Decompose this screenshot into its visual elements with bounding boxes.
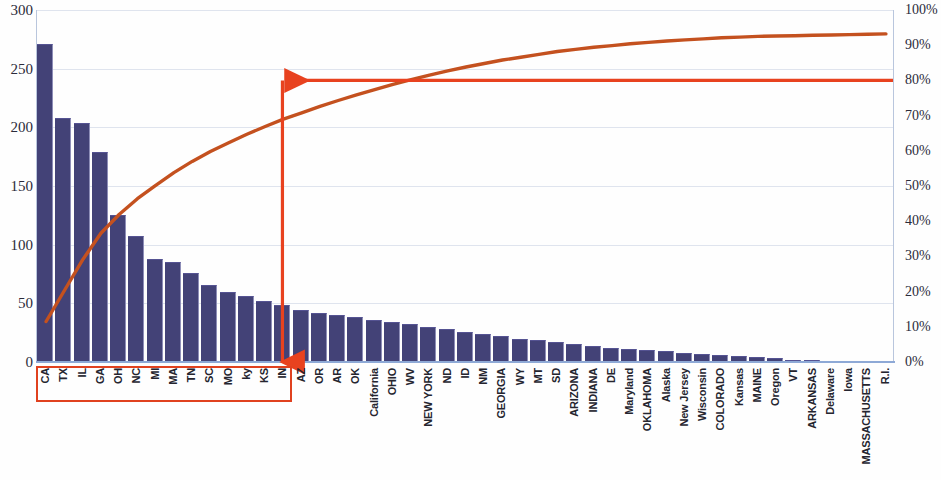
x-axis-label: MT	[529, 366, 547, 478]
x-axis-label-text: R.I.	[879, 368, 891, 384]
y2-tick-70: 70%	[905, 108, 931, 124]
x-axis-label-text: New Jersey	[678, 368, 690, 427]
x-axis-label: Iowa	[839, 366, 857, 478]
x-axis-label-text: MA	[167, 368, 179, 385]
bar	[530, 340, 546, 362]
x-axis-label-text: OKLAHOMA	[641, 368, 653, 431]
bar	[384, 322, 400, 362]
bar	[110, 215, 126, 362]
x-axis-label-text: California	[368, 368, 380, 417]
x-axis-label-text: ARIZONA	[568, 368, 580, 417]
y2-tick-80: 80%	[905, 72, 931, 88]
x-axis-label-text: COLORADO	[714, 368, 726, 431]
x-axis-label-text: Delaware	[824, 368, 836, 415]
bar	[439, 329, 455, 362]
x-axis-label-text: TN	[185, 368, 197, 382]
x-axis-label: ID	[456, 366, 474, 478]
x-axis-label-text: MT	[532, 368, 544, 383]
x-axis-labels: CATXILGAOHNCMIMATNSCMOkyKSINAZORAROKCali…	[36, 366, 894, 478]
y-tick-300: 300	[4, 2, 33, 19]
bar	[55, 118, 71, 362]
x-axis-label: SD	[547, 366, 565, 478]
x-axis-label: MO	[219, 366, 237, 478]
x-axis-label: AR	[328, 366, 346, 478]
x-axis-label: MASSACHUSETTS	[857, 366, 875, 478]
x-axis-label-text: Kansas	[733, 368, 745, 406]
x-axis-label-text: ky	[240, 368, 252, 380]
x-axis-label: COLORADO	[711, 366, 729, 478]
y-tick-100: 100	[4, 236, 33, 253]
y-tick-250: 250	[4, 60, 33, 77]
x-axis-label: MI	[146, 366, 164, 478]
x-axis-label-text: ND	[441, 368, 453, 384]
bar	[311, 313, 327, 362]
y2-tick-60: 60%	[905, 143, 931, 159]
x-axis-label-text: MAINE	[751, 368, 763, 402]
x-axis-label: Kansas	[730, 366, 748, 478]
bar	[585, 346, 601, 362]
x-axis-label-text: Iowa	[842, 368, 854, 392]
x-axis-label-text: INDIANA	[587, 368, 599, 412]
bar	[128, 236, 144, 362]
x-axis-label-text: OR	[313, 368, 325, 384]
x-axis-label-text: OHIO	[386, 368, 398, 395]
x-axis-label: MA	[164, 366, 182, 478]
bar	[457, 332, 473, 363]
bar	[147, 259, 163, 362]
bar	[201, 285, 217, 362]
x-axis-label-text: MO	[222, 368, 234, 385]
x-axis-label: Oregon	[766, 366, 784, 478]
x-axis-label: ky	[237, 366, 255, 478]
y2-tick-30: 30%	[905, 248, 931, 264]
bar	[329, 315, 345, 362]
x-axis-label-text: Oregon	[769, 368, 781, 406]
plot-area	[36, 10, 894, 362]
bar	[402, 324, 418, 362]
bar	[165, 262, 181, 362]
x-axis-label-text: MASSACHUSETTS	[860, 368, 872, 464]
x-axis-label: OHIO	[383, 366, 401, 478]
x-axis-label-text: NEW YORK	[422, 368, 434, 427]
x-axis-label-text: SC	[203, 368, 215, 383]
bar	[475, 334, 491, 362]
bar	[293, 310, 309, 362]
x-axis-label-text: CA	[39, 368, 51, 384]
bar	[238, 296, 254, 362]
x-axis-label: OR	[310, 366, 328, 478]
x-axis-label-text: WV	[404, 368, 416, 385]
x-axis-label-text: GA	[94, 368, 106, 384]
y2-tick-90: 90%	[905, 37, 931, 53]
y2-tick-10: 10%	[905, 319, 931, 335]
x-axis-label: KS	[255, 366, 273, 478]
y-tick-0: 0	[4, 354, 33, 371]
y-axis-left: 300250200150100500	[0, 0, 33, 480]
pareto-chart: 300250200150100500 100%90%80%70%60%50%40…	[0, 0, 941, 480]
x-axis-label: ARKANSAS	[803, 366, 821, 478]
bar	[74, 123, 90, 362]
x-axis-label: Maryland	[620, 366, 638, 478]
x-axis-label-text: VT	[787, 368, 799, 382]
x-axis-label: NM	[474, 366, 492, 478]
bar	[420, 327, 436, 362]
x-axis-label-text: SD	[550, 368, 562, 383]
bar	[548, 342, 564, 362]
y2-tick-20: 20%	[905, 284, 931, 300]
x-axis-label-text: IN	[276, 368, 288, 379]
x-axis-label: IN	[273, 366, 291, 478]
x-axis-label-text: KS	[258, 368, 270, 383]
x-axis-label: DE	[602, 366, 620, 478]
x-axis-label-text: Wisconsin	[696, 368, 708, 421]
x-axis-label: ARIZONA	[565, 366, 583, 478]
x-axis-label-text: ID	[459, 368, 471, 379]
y2-tick-0: 0%	[905, 354, 924, 370]
bar	[92, 152, 108, 362]
x-axis-label: Alaska	[657, 366, 675, 478]
x-axis-label: WY	[511, 366, 529, 478]
x-axis-label: TX	[54, 366, 72, 478]
x-axis-label-text: Alaska	[660, 368, 672, 402]
x-axis-label: Delaware	[821, 366, 839, 478]
x-axis-label: NEW YORK	[419, 366, 437, 478]
bar	[347, 317, 363, 362]
bar	[566, 344, 582, 362]
x-axis-baseline	[36, 361, 895, 363]
